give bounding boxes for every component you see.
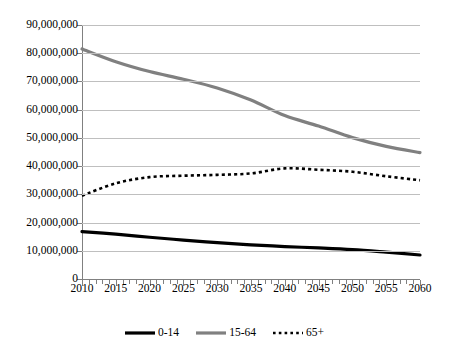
gridline	[82, 138, 420, 139]
series-line	[82, 168, 420, 196]
x-axis-tick-label: 2050	[341, 283, 364, 295]
gridline	[82, 81, 420, 82]
x-axis-tick-label: 2045	[307, 283, 330, 295]
gridline	[82, 53, 420, 54]
y-axis-tick-label: 50,000,000	[4, 132, 78, 144]
y-axis-tick-label: 20,000,000	[4, 217, 78, 229]
y-axis-tick-label: 80,000,000	[4, 47, 78, 59]
series-lines	[82, 25, 420, 279]
plot-area	[82, 25, 420, 279]
legend-item[interactable]: 0-14	[125, 327, 179, 339]
x-axis-tick-label: 2035	[240, 283, 263, 295]
x-axis-tick-label: 2030	[206, 283, 229, 295]
gridline	[82, 110, 420, 111]
population-projection-chart: 010,000,00020,000,00030,000,00040,000,00…	[0, 0, 449, 355]
legend-line-icon	[273, 328, 303, 338]
x-axis-tick-label: 2060	[409, 283, 432, 295]
legend-item[interactable]: 65+	[273, 327, 324, 339]
x-axis-tick-label: 2010	[71, 283, 94, 295]
chart-legend: 0-1415-6465+	[0, 327, 449, 339]
y-axis-tick-label: 90,000,000	[4, 19, 78, 31]
y-axis-labels: 010,000,00020,000,00030,000,00040,000,00…	[0, 0, 78, 355]
x-axis-tick-label: 2040	[273, 283, 296, 295]
gridline	[82, 251, 420, 252]
legend-label: 15-64	[229, 327, 256, 339]
y-axis-tick-label: 40,000,000	[4, 160, 78, 172]
gridline	[82, 25, 420, 26]
legend-item[interactable]: 15-64	[196, 327, 256, 339]
y-axis-tick-label: 10,000,000	[4, 245, 78, 257]
legend-line-icon	[125, 328, 155, 338]
legend-line-icon	[196, 328, 226, 338]
gridline	[82, 223, 420, 224]
x-axis-tick-label: 2020	[138, 283, 161, 295]
gridline	[82, 194, 420, 195]
y-axis-tick-label: 60,000,000	[4, 104, 78, 116]
x-axis-tick-label: 2055	[375, 283, 398, 295]
legend-label: 65+	[306, 327, 324, 339]
y-axis-tick-label: 0	[4, 273, 78, 285]
y-axis-tick-label: 70,000,000	[4, 76, 78, 88]
x-axis-tick-label: 2015	[104, 283, 127, 295]
x-axis-labels: 2010201520202025203020352040204520502055…	[82, 283, 420, 303]
y-axis-tick-label: 30,000,000	[4, 189, 78, 201]
gridline	[82, 166, 420, 167]
x-axis-tick-label: 2025	[172, 283, 195, 295]
legend-label: 0-14	[158, 327, 179, 339]
